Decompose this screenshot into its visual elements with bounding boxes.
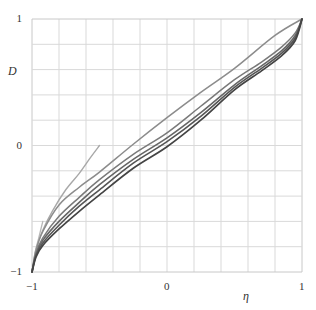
x-tick-label: −1 <box>26 281 38 292</box>
x-tick-label: 1 <box>299 281 305 292</box>
y-tick-label: 1 <box>17 13 23 24</box>
grid-lines <box>32 19 302 272</box>
x-axis-label: η <box>243 290 249 302</box>
x-tick-label: 0 <box>164 281 170 292</box>
y-tick-label: −1 <box>10 266 22 277</box>
chart <box>0 0 316 310</box>
y-axis-label: D <box>8 65 17 77</box>
y-tick-label: 0 <box>17 140 23 151</box>
